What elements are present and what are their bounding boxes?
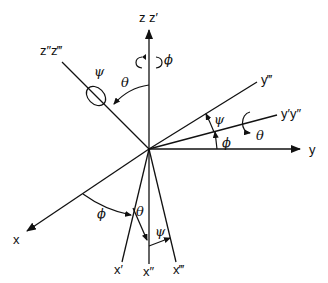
z-double-prime-label: z″z‴: [40, 43, 63, 58]
phi-z-label: ϕ: [164, 52, 173, 67]
psi-y-label: ψ: [214, 112, 225, 127]
x-double-prime-label: x″: [143, 264, 155, 279]
x-prime-label: x′: [114, 262, 124, 277]
x-triple-prime-label: x‴: [173, 262, 185, 277]
phi-x-label: ϕ: [97, 206, 106, 221]
theta-y-label: θ: [256, 128, 264, 143]
euler-angle-diagram: z z′ ϕ z″z‴ ψ θ y y′y″ y‴ ϕ ψ θ x x′ x″ …: [0, 0, 328, 283]
y-prime-label: y′y″: [281, 106, 301, 121]
phi-y-label: ϕ: [222, 135, 231, 150]
theta-z-label: θ: [121, 75, 129, 90]
y-triple-prime-axis: [149, 82, 257, 149]
z-double-prime-axis: [62, 62, 149, 149]
psi-z-label: ψ: [94, 64, 105, 79]
y-triple-prime-label: y‴: [261, 72, 273, 87]
psi-x-label: ψ: [155, 224, 166, 239]
x-axis: [27, 149, 149, 231]
psi-arc-x: [149, 238, 170, 246]
x-axis-label: x: [13, 232, 20, 247]
z-axis-label: z z′: [139, 10, 159, 25]
phi-arc-y: [215, 132, 217, 149]
theta-x-label: θ: [136, 204, 144, 219]
psi-arc-y: [206, 114, 214, 132]
phi-rotation-arrow-icon: [142, 54, 146, 60]
theta-arc-z: [114, 85, 149, 104]
y-axis-label: y: [309, 142, 316, 157]
phi-arc-x: [83, 194, 131, 215]
